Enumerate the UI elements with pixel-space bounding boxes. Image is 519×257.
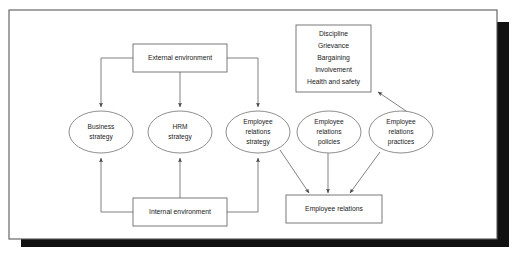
- employee-relations-label: Employee relations: [305, 205, 363, 213]
- topic-item-health-and-safety: Health and safety: [307, 78, 360, 86]
- topic-item-involvement: Involvement: [315, 66, 352, 73]
- topic-item-discipline: Discipline: [319, 30, 348, 38]
- er-practices-label-line1: Employee: [386, 118, 416, 126]
- business-strategy-label-line2: strategy: [89, 133, 113, 141]
- node-topics-box[interactable]: Discipline Grievance Bargaining Involvem…: [296, 25, 371, 92]
- external-environment-label: External environment: [148, 54, 212, 61]
- node-hrm-strategy[interactable]: HRM strategy: [148, 111, 212, 153]
- topic-item-bargaining: Bargaining: [317, 54, 350, 62]
- node-employee-relations[interactable]: Employee relations: [286, 195, 382, 223]
- node-external-environment[interactable]: External environment: [133, 44, 227, 72]
- er-strategy-label-line2: relations: [246, 128, 272, 135]
- er-policies-label-line2: relations: [317, 128, 343, 135]
- node-employee-relations-policies[interactable]: Employee relations policies: [297, 111, 361, 153]
- node-employee-relations-strategy[interactable]: Employee relations strategy: [226, 111, 290, 153]
- figure-root: External environment Internal environmen…: [0, 0, 519, 257]
- node-employee-relations-practices[interactable]: Employee relations practices: [369, 111, 433, 153]
- er-strategy-label-line1: Employee: [243, 118, 273, 126]
- hrm-strategy-label-line2: strategy: [168, 133, 192, 141]
- topic-item-grievance: Grievance: [318, 42, 349, 49]
- er-practices-label-line2: relations: [389, 128, 415, 135]
- business-strategy-label-line1: Business: [88, 123, 115, 130]
- er-policies-label-line1: Employee: [314, 118, 344, 126]
- node-internal-environment[interactable]: Internal environment: [133, 198, 227, 226]
- internal-environment-label: Internal environment: [149, 208, 211, 215]
- er-practices-label-line3: practices: [388, 138, 415, 146]
- hrm-strategy-label-line1: HRM: [172, 123, 187, 130]
- er-strategy-label-line3: strategy: [246, 138, 270, 146]
- diagram-canvas: External environment Internal environmen…: [0, 0, 519, 257]
- node-business-strategy[interactable]: Business strategy: [69, 111, 133, 153]
- er-policies-label-line3: policies: [318, 138, 341, 146]
